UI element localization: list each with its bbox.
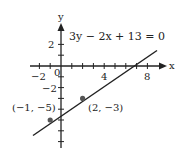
tick-label-x-8: 8 <box>144 71 150 82</box>
tick-label-y-2: 2 <box>48 39 54 50</box>
y-axis-arrow-icon <box>58 23 65 31</box>
tick-label-x-neg2: −2 <box>31 71 46 82</box>
point-b-label: (2, −3) <box>88 102 123 113</box>
tick-label-x-4: 4 <box>101 71 107 82</box>
point-b-dot <box>80 96 85 101</box>
tick-label-y-neg2: −2 <box>42 83 57 94</box>
coordinate-plane: y x 3y − 2x + 13 = 0 2 −2 −2 0 4 8 (−1, … <box>0 0 184 156</box>
point-a-dot <box>48 117 53 122</box>
x-axis-arrow-icon <box>159 63 167 70</box>
y-axis-label: y <box>57 11 64 22</box>
origin-label: 0 <box>54 67 60 78</box>
x-axis-label: x <box>169 60 175 71</box>
x-axis <box>30 63 167 70</box>
y-axis <box>58 23 65 148</box>
point-a-label: (−1, −5) <box>12 102 56 113</box>
equation-label: 3y − 2x + 13 = 0 <box>69 30 165 43</box>
